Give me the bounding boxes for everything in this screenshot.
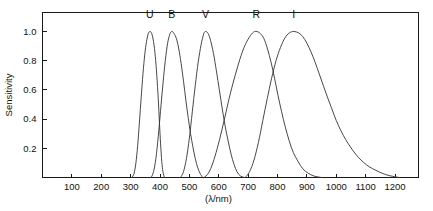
x-tick-label: 800 [270, 181, 286, 192]
x-tick-label: 400 [152, 181, 168, 192]
x-tick-label: 700 [240, 181, 256, 192]
y-tick-label: 0.4 [23, 113, 36, 124]
sensitivity-curves [132, 31, 399, 177]
y-tick-label: 0.6 [23, 84, 36, 95]
y-tick-label: 0.2 [23, 143, 36, 154]
x-tick-label: 500 [181, 181, 197, 192]
band-annotations: UBVRI [146, 8, 295, 20]
ubvri-sensitivity-chart: 100200300400500600700800900100011001200 … [0, 0, 433, 211]
curve-v [181, 31, 245, 177]
curve-u [132, 31, 164, 177]
x-axis-ticks [72, 174, 395, 178]
figure-container: 100200300400500600700800900100011001200 … [0, 0, 433, 211]
x-axis-title: (λ/nm) [205, 193, 232, 204]
x-axis-tick-labels: 100200300400500600700800900100011001200 [64, 181, 406, 192]
band-label-v: V [202, 8, 209, 20]
x-tick-label: 600 [211, 181, 227, 192]
y-tick-label: 0.8 [23, 55, 36, 66]
x-tick-label: 900 [299, 181, 315, 192]
y-axis-tick-labels: 0.20.40.60.81.0 [23, 26, 36, 154]
band-label-r: R [253, 8, 261, 20]
y-tick-label: 1.0 [23, 26, 36, 37]
x-tick-label: 1200 [384, 181, 405, 192]
band-label-u: U [146, 8, 154, 20]
y-axis-ticks [43, 31, 47, 148]
x-tick-label: 100 [64, 181, 80, 192]
y-axis-title: Sensitivity [3, 73, 14, 116]
x-tick-label: 300 [123, 181, 139, 192]
x-tick-label: 1100 [355, 181, 375, 192]
x-tick-label: 1000 [326, 181, 347, 192]
band-label-i: I [292, 8, 295, 20]
x-tick-label: 200 [93, 181, 109, 192]
band-label-b: B [168, 8, 175, 20]
